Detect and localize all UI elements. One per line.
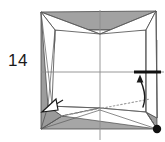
- paper-flap-right: [146, 11, 157, 118]
- origami-diagram: [0, 0, 165, 142]
- origami-step-figure: 14: [0, 0, 165, 142]
- reference-dot: [153, 125, 161, 133]
- paper-face-main: [48, 30, 146, 116]
